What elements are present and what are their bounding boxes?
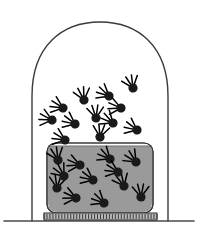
figure-canvas <box>0 0 198 235</box>
evaporation-figure <box>0 0 198 235</box>
heating-base-plate <box>44 213 157 220</box>
